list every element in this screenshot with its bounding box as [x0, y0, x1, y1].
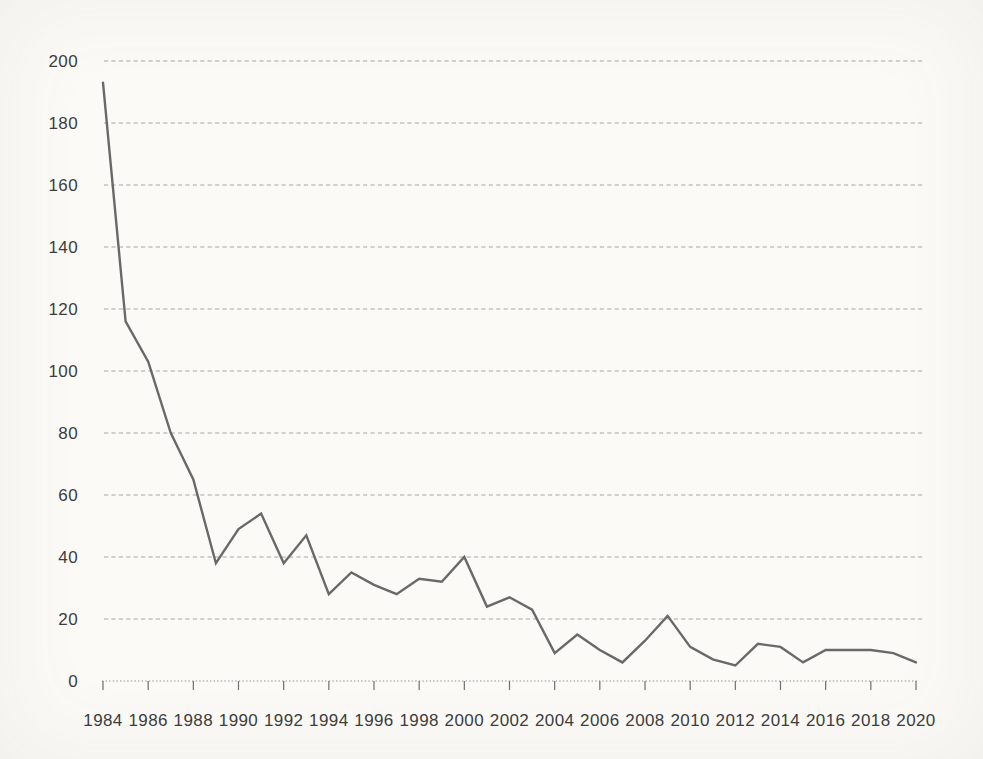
x-tick-label-2000: 2000	[445, 711, 484, 730]
x-tick-label-2012: 2012	[716, 711, 755, 730]
line-chart-figure: 0204060801001201401601802001984198619881…	[0, 0, 983, 759]
x-tick-label-2016: 2016	[806, 711, 845, 730]
x-tick-label-2006: 2006	[580, 711, 619, 730]
x-tick-label-2002: 2002	[490, 711, 529, 730]
x-tick-label-1994: 1994	[309, 711, 348, 730]
x-tick-label-1988: 1988	[174, 711, 213, 730]
y-tick-label-140: 140	[48, 238, 78, 257]
x-tick-label-2004: 2004	[535, 711, 574, 730]
y-tick-label-20: 20	[58, 610, 78, 629]
x-tick-label-1998: 1998	[399, 711, 438, 730]
x-tick-label-1984: 1984	[83, 711, 122, 730]
x-tick-label-2008: 2008	[625, 711, 664, 730]
x-tick-label-2018: 2018	[851, 711, 890, 730]
chart-page: 0204060801001201401601802001984198619881…	[0, 0, 983, 759]
x-tick-label-1996: 1996	[354, 711, 393, 730]
y-tick-label-0: 0	[68, 672, 78, 691]
y-tick-label-180: 180	[48, 114, 78, 133]
x-tick-label-2020: 2020	[896, 711, 935, 730]
y-tick-label-200: 200	[48, 52, 78, 71]
x-tick-label-2014: 2014	[761, 711, 800, 730]
line-chart: 0204060801001201401601802001984198619881…	[0, 0, 983, 759]
y-tick-label-100: 100	[48, 362, 78, 381]
x-tick-label-2010: 2010	[670, 711, 709, 730]
y-tick-label-160: 160	[48, 176, 78, 195]
y-tick-label-120: 120	[48, 300, 78, 319]
data-line-series	[103, 83, 916, 666]
y-tick-label-80: 80	[58, 424, 78, 443]
y-tick-label-60: 60	[58, 486, 78, 505]
x-tick-label-1986: 1986	[128, 711, 167, 730]
x-tick-label-1992: 1992	[264, 711, 303, 730]
x-tick-label-1990: 1990	[219, 711, 258, 730]
y-tick-label-40: 40	[58, 548, 78, 567]
